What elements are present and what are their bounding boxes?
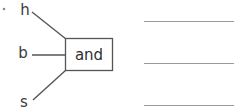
input-label-b: b	[18, 44, 28, 62]
diagram-canvas: h b s and	[0, 0, 234, 110]
input-label-h: h	[20, 1, 30, 19]
logic-gate-diagram: h b s and	[0, 0, 234, 110]
input-wire-s	[33, 70, 66, 100]
and-gate-label: and	[75, 46, 103, 64]
input-label-s: s	[20, 93, 28, 111]
input-wire-h	[32, 12, 66, 39]
list-bullet-dot	[3, 8, 6, 11]
